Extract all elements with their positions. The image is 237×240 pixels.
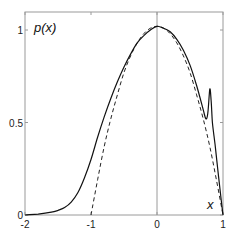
y-tick-label: 0.5: [9, 118, 23, 129]
solid-curve: [25, 26, 223, 215]
x-tick-label: -1: [87, 219, 96, 230]
x-tick-label: 0: [154, 219, 160, 230]
x-tick-label: 1: [220, 219, 226, 230]
plot-frame: [25, 12, 223, 215]
y-axis-label: p(x): [33, 20, 56, 35]
x-axis-ticks: -2-101: [21, 12, 227, 230]
y-axis-ticks: 00.51: [9, 25, 223, 221]
y-tick-label: 0: [17, 210, 23, 221]
y-tick-label: 1: [17, 25, 23, 36]
x-axis-label: x: [206, 197, 214, 212]
chart: -2-101 00.51 p(x) x: [0, 0, 237, 240]
